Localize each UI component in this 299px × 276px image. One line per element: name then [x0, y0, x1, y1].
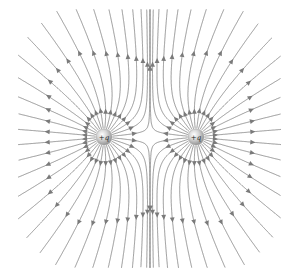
field-line [56, 146, 104, 265]
arrow-icon [228, 59, 233, 65]
arrow-icon [85, 122, 91, 127]
positive-charge-right: +q [188, 129, 204, 145]
arrow-icon [150, 210, 155, 215]
arrow-icon [117, 155, 122, 161]
arrow-icon [183, 158, 188, 164]
arrow-icon [163, 138, 168, 143]
arrow-icon [132, 132, 137, 137]
arrow-icon [249, 119, 255, 124]
arrow-icon [192, 109, 197, 114]
arrow-icon [150, 62, 155, 67]
field-line [200, 38, 272, 130]
arrow-icon [90, 113, 95, 119]
arrow-icon [99, 161, 104, 166]
arrow-icon [170, 54, 175, 59]
arrow-icon [141, 58, 146, 63]
arrow-icon [170, 121, 176, 126]
arrow-icon [188, 109, 193, 114]
arrow-icon [103, 109, 108, 114]
arrow-icon [210, 122, 216, 127]
arrow-icon [46, 174, 52, 179]
arrow-icon [108, 109, 113, 114]
arrow-icon [99, 108, 104, 113]
charge-label: +q [99, 134, 110, 142]
arrow-icon [180, 52, 185, 57]
arrow-icon [104, 51, 109, 57]
arrow-icon [45, 119, 51, 124]
arrow-icon [192, 161, 197, 166]
arrow-icon [46, 95, 52, 100]
arrow-icon [66, 58, 71, 64]
field-line [94, 9, 112, 129]
charge-label: +q [191, 134, 202, 142]
arrow-icon [179, 113, 184, 119]
field-line [199, 24, 259, 129]
arrow-icon [65, 211, 70, 217]
arrow-icon [90, 156, 95, 162]
arrow-icon [250, 140, 255, 145]
field-line [197, 146, 245, 265]
arrow-icon [116, 52, 121, 57]
arrow-icon [197, 161, 202, 166]
arrow-icon [45, 150, 51, 155]
arrow-icon [180, 218, 185, 223]
field-line [41, 23, 101, 129]
arrow-icon [247, 173, 253, 178]
arrow-icon [125, 121, 131, 126]
arrow-icon [126, 54, 131, 59]
arrow-icon [141, 213, 146, 218]
arrow-icon [132, 138, 137, 143]
field-line [57, 11, 103, 128]
field-line-diagram: +q +q [0, 0, 299, 276]
field-line [93, 145, 112, 268]
arrow-icon [145, 210, 150, 215]
arrow-icon [197, 108, 202, 113]
arrow-icon [112, 111, 116, 117]
arrow-icon [155, 213, 160, 218]
field-line [188, 9, 206, 129]
field-line [197, 11, 244, 128]
arrow-icon [134, 56, 139, 61]
arrow-icon [125, 148, 131, 153]
arrow-icon [179, 155, 184, 161]
arrow-icon [112, 158, 117, 164]
arrow-icon [104, 219, 109, 225]
arrow-icon [163, 132, 168, 137]
arrow-icon [183, 111, 187, 117]
arrow-icon [170, 148, 176, 153]
arrow-icon [85, 147, 91, 152]
arrow-icon [187, 160, 192, 165]
arrow-icon [247, 96, 253, 101]
arrow-icon [205, 155, 210, 161]
arrow-icon [134, 215, 139, 220]
arrow-icon [103, 161, 108, 166]
arrow-icon [161, 215, 166, 220]
arrow-icon [204, 50, 209, 56]
arrow-icon [204, 220, 209, 226]
arrow-icon [161, 56, 166, 61]
arrow-icon [117, 113, 122, 119]
field-line [200, 145, 273, 238]
arrow-icon [45, 130, 50, 135]
field-line [28, 37, 100, 129]
positive-charge-left: +q [96, 129, 112, 145]
field-line [188, 145, 207, 268]
arrow-icon [108, 160, 113, 165]
arrow-icon [210, 147, 216, 152]
arrow-icon [115, 218, 120, 223]
arrow-icon [191, 51, 196, 57]
arrow-icon [155, 58, 160, 63]
arrow-icon [250, 130, 255, 135]
arrow-icon [145, 62, 150, 67]
field-line [199, 145, 260, 252]
field-line [27, 145, 101, 238]
arrow-icon [91, 220, 96, 226]
arrow-icon [229, 211, 234, 217]
arrow-icon [191, 219, 196, 225]
arrow-icon [45, 140, 50, 145]
arrow-icon [249, 150, 255, 155]
arrow-icon [205, 113, 210, 119]
field-lines [18, 9, 281, 268]
arrow-icon [92, 50, 97, 56]
